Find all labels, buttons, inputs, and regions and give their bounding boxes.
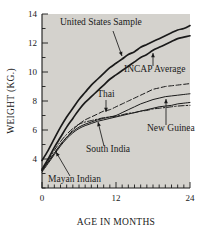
y-tick-label: 12 [28, 38, 37, 48]
y-axis-tick-labels: 468101214 [28, 9, 38, 164]
x-tick-label: 12 [112, 193, 121, 203]
x-tick-label: 24 [186, 193, 196, 203]
annotation-label-thai: Thai [97, 89, 115, 99]
annotation-label-new-guinea: New Guinea [147, 123, 196, 133]
y-tick-label: 4 [33, 154, 38, 164]
annotation-label-incap-average: INCAP Average [124, 64, 185, 74]
x-tick-label: 0 [40, 193, 45, 203]
annotation-label-mayan-indian: Mayan Indian [48, 174, 101, 184]
x-axis-tick-labels: 01224 [40, 193, 195, 203]
y-tick-label: 8 [33, 96, 38, 106]
annotation-label-south-india: South India [86, 144, 131, 154]
chart-canvas: 01224 468101214 United States SampleINCA… [0, 0, 210, 242]
y-tick-label: 14 [28, 9, 38, 19]
x-axis-title: AGE IN MONTHS [77, 217, 155, 227]
growth-chart-figure: 01224 468101214 United States SampleINCA… [0, 0, 210, 242]
annotation-label-united-states-sample: United States Sample [60, 17, 142, 27]
y-tick-label: 10 [28, 67, 38, 77]
y-axis-title: WEIGHT (KG.) [6, 68, 17, 134]
y-tick-label: 6 [33, 125, 38, 135]
